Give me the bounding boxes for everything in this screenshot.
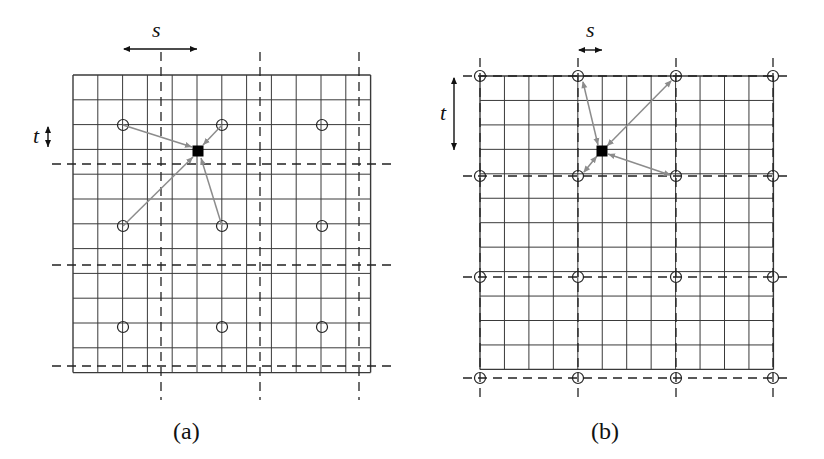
panel-a-t-label: t: [33, 123, 39, 149]
target-pixel-square-icon: [193, 146, 204, 157]
panel-b-s-label: s: [586, 17, 595, 43]
interpolation-arrow: [123, 125, 192, 147]
interpolation-arrow: [583, 82, 598, 145]
interpolation-arrow: [584, 156, 597, 172]
interpolation-arrow: [203, 125, 222, 145]
interpolation-arrow: [607, 81, 671, 146]
figure-canvas: [0, 0, 824, 459]
panel-a-grid-diagram: [48, 49, 394, 400]
panel-b-t-label: t: [440, 100, 446, 126]
panel-b-grid-diagram: [454, 50, 792, 398]
panel-b-caption: (b): [591, 418, 619, 445]
interpolation-arrow: [123, 157, 193, 226]
target-pixel-square-icon: [597, 146, 608, 157]
panel-a-s-label: s: [152, 17, 161, 43]
interpolation-arrow: [201, 158, 222, 226]
interpolation-arrow: [608, 154, 670, 175]
sample-point-circle-icon: [317, 221, 328, 232]
panel-a-caption: (a): [173, 418, 200, 445]
